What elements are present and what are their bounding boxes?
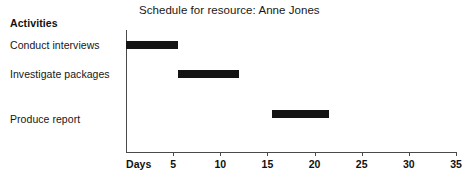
x-axis-title: Days (126, 158, 152, 171)
x-tick-label-25: 25 (356, 158, 368, 171)
x-tick-20 (315, 152, 316, 156)
x-tick-25 (362, 152, 363, 156)
activity-label-conduct-interviews: Conduct interviews (10, 39, 100, 52)
gantt-bar-conduct-interviews (126, 41, 178, 49)
x-tick-35 (456, 152, 457, 156)
chart-title: Schedule for resource: Anne Jones (139, 3, 320, 17)
x-tick-10 (220, 152, 221, 156)
x-tick-label-10: 10 (214, 158, 226, 171)
activities-column-header: Activities (10, 17, 58, 30)
x-axis-line (126, 152, 456, 153)
x-tick-30 (409, 152, 410, 156)
x-tick-5 (173, 152, 174, 156)
x-tick-label-35: 35 (450, 158, 462, 171)
x-tick-label-5: 5 (170, 158, 176, 171)
x-tick-label-15: 15 (262, 158, 274, 171)
activity-label-produce-report: Produce report (10, 113, 80, 126)
gantt-bar-investigate-packages (178, 70, 239, 78)
x-tick-label-20: 20 (309, 158, 321, 171)
plot-area: 5101520253035 (126, 30, 456, 152)
x-tick-label-30: 30 (403, 158, 415, 171)
activity-label-investigate-packages: Investigate packages (10, 68, 110, 81)
gantt-chart: Schedule for resource: Anne Jones Activi… (0, 0, 466, 176)
gantt-bar-produce-report (272, 110, 329, 118)
x-tick-15 (267, 152, 268, 156)
